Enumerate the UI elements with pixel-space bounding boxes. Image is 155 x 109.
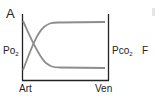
po2-axis-label: Po2 [3,46,19,59]
po2-curve [23,21,105,68]
pco2-axis-label: Pco2 [112,46,133,59]
next-panel-partial-box [152,8,155,16]
next-panel-partial-label: F [142,46,148,56]
x-label-venous: Ven [95,84,112,94]
x-label-arterial: Art [19,84,32,94]
